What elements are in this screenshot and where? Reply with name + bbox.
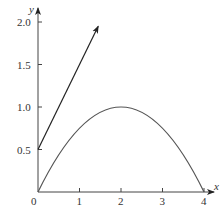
x-axis-label: x bbox=[213, 180, 219, 192]
x-tick-label: 3 bbox=[160, 195, 166, 207]
plot-area: x y 0 1 2 3 4 0.5 1.0 1.5 2.0 bbox=[0, 0, 222, 209]
x-ticks: 1 2 3 4 bbox=[77, 188, 208, 207]
parabola-curve bbox=[38, 107, 204, 192]
y-tick-label: 0.5 bbox=[17, 144, 31, 156]
x-tick-label: 4 bbox=[201, 195, 207, 207]
x-tick-label: 1 bbox=[77, 195, 83, 207]
x-tick-label: 2 bbox=[118, 195, 124, 207]
y-tick-label: 2.0 bbox=[17, 16, 31, 28]
y-axis-label: y bbox=[28, 3, 34, 15]
tangent-line bbox=[38, 26, 98, 149]
y-tick-label: 1.0 bbox=[17, 101, 31, 113]
origin-label: 0 bbox=[31, 195, 37, 207]
y-tick-label: 1.5 bbox=[17, 59, 31, 71]
